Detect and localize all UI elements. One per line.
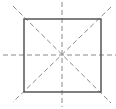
square-symmetry-figure [0,0,116,109]
diagram-canvas: Square with lines of symmetry [0,0,116,109]
